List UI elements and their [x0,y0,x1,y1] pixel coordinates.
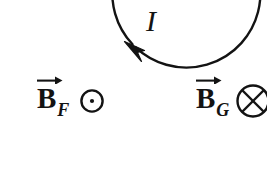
vector-b-f: B F [37,84,68,113]
inside-field-label: B F [37,84,68,113]
vector-b-g: B G [196,84,228,113]
vector-arrow-icon [195,75,222,84]
vector-arrow-icon [36,75,63,84]
physics-figure: I B F B G [0,0,267,188]
inside-field-base: B [37,84,56,113]
current-loop-circle [112,0,260,68]
inside-field-subscript: F [57,101,69,119]
current-arrowhead-icon [125,42,145,62]
outside-field-subscript: G [216,101,229,119]
dot-in-circle-icon [81,90,102,111]
current-label: I [146,6,156,36]
outside-field-label: B G [196,84,228,113]
outside-field-base: B [196,84,215,113]
cross-in-circle-icon [238,86,268,117]
